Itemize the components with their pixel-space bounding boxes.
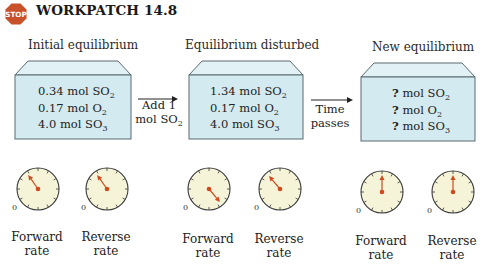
reverse-rate-gauge-new: 0 xyxy=(430,170,476,220)
gauge-dial-icon xyxy=(430,170,476,216)
stage-label-disturbed: Equilibrium disturbed xyxy=(185,38,319,52)
gauge-dial-icon xyxy=(257,167,303,213)
container-new: ? mol SO2 ? mol O2 ? mol SO3 xyxy=(360,62,476,142)
forward-rate-gauge-initial: 0 xyxy=(15,167,61,217)
arrow-label-time-passes: Time passes xyxy=(307,102,353,130)
gauge-label-reverse: Reverserate xyxy=(422,234,482,262)
container-initial: 0.34 mol SO2 0.17 mol O2 4.0 mol SO3 xyxy=(14,60,132,140)
forward-rate-gauge-new: 0 xyxy=(359,170,405,220)
amount-so3: ? mol SO3 xyxy=(392,118,450,135)
gauge-dial-icon xyxy=(15,167,61,213)
gauge-label-forward: Forwardrate xyxy=(7,230,67,258)
amount-o2: 0.17 mol O2 xyxy=(210,100,287,117)
amount-so3: 4.0 mol SO3 xyxy=(38,116,115,133)
stage-label-initial: Initial equilibrium xyxy=(28,38,138,52)
amount-list: ? mol SO2 ? mol O2 ? mol SO3 xyxy=(392,85,450,135)
reverse-rate-gauge-initial: 0 xyxy=(84,167,130,217)
amount-so3: 4.0 mol SO3 xyxy=(210,116,287,133)
gauge-zero-label: 0 xyxy=(183,203,188,212)
page-title: WORKPATCH 14.8 xyxy=(36,2,177,18)
gauge-dial-icon xyxy=(186,167,232,213)
gauge-label-forward: Forwardrate xyxy=(351,234,411,262)
gauge-label-reverse: Reverserate xyxy=(249,232,309,260)
amount-list: 0.34 mol SO2 0.17 mol O2 4.0 mol SO3 xyxy=(38,83,115,133)
stop-sign-icon: STOP xyxy=(5,3,27,25)
forward-rate-gauge-disturbed: 0 xyxy=(186,167,232,217)
amount-so2: 1.34 mol SO2 xyxy=(210,83,287,100)
arrow-label-add-so2: Add 1 mol SO2 xyxy=(134,98,184,126)
reverse-rate-gauge-disturbed: 0 xyxy=(257,167,303,217)
gauge-zero-label: 0 xyxy=(81,203,86,212)
gauge-label-forward: Forwardrate xyxy=(178,232,238,260)
container-disturbed: 1.34 mol SO2 0.17 mol O2 4.0 mol SO3 xyxy=(188,60,304,140)
svg-text:STOP: STOP xyxy=(5,10,26,19)
gauge-zero-label: 0 xyxy=(427,206,432,215)
amount-list: 1.34 mol SO2 0.17 mol O2 4.0 mol SO3 xyxy=(210,83,287,133)
amount-o2: 0.17 mol O2 xyxy=(38,100,115,117)
amount-so2: ? mol SO2 xyxy=(392,85,450,102)
amount-so2: 0.34 mol SO2 xyxy=(38,83,115,100)
stage-label-new: New equilibrium xyxy=(372,40,474,54)
amount-o2: ? mol O2 xyxy=(392,102,450,119)
gauge-zero-label: 0 xyxy=(254,203,259,212)
gauge-zero-label: 0 xyxy=(12,203,17,212)
gauge-zero-label: 0 xyxy=(356,206,361,215)
gauge-dial-icon xyxy=(359,170,405,216)
gauge-dial-icon xyxy=(84,167,130,213)
gauge-label-reverse: Reverserate xyxy=(76,230,136,258)
